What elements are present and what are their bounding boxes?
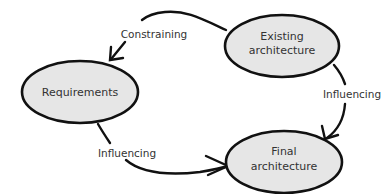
edge-line (327, 104, 345, 138)
node-label-line1: Final (271, 145, 296, 158)
architecture-diagram: Constraining Influencing Influencing Req… (0, 0, 388, 194)
node-label-line2: architecture (251, 160, 318, 173)
edge-label-constraining: Constraining (121, 28, 188, 40)
node-label-line2: architecture (249, 44, 316, 57)
edge-line-arrow-tail (112, 42, 125, 58)
edge-line (126, 160, 228, 174)
edge-constraining: Constraining (110, 12, 226, 60)
node-requirements: Requirements (22, 61, 138, 123)
edge-line (334, 65, 345, 84)
edge-label-influencing-right: Influencing (323, 88, 381, 100)
edge-influencing-bottom: Influencing (98, 124, 228, 175)
edge-label-influencing-bottom: Influencing (98, 147, 156, 159)
edge-line (98, 124, 110, 143)
arrowhead-icon (206, 156, 228, 175)
node-existing-architecture: Existing architecture (225, 15, 339, 77)
edge-influencing-right: Influencing (322, 65, 381, 139)
node-label: Requirements (42, 86, 119, 99)
node-final-architecture: Final architecture (226, 131, 342, 193)
node-label-line1: Existing (260, 30, 304, 43)
